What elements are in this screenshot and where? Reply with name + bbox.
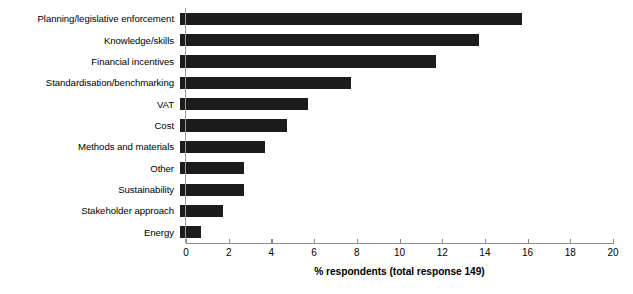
x-axis-title: % respondents (total response 149) [186,266,613,277]
bar-track [180,93,633,114]
bar-track [180,179,633,200]
bar [180,98,308,110]
bar-row: Planning/legislative enforcement [0,8,633,29]
bar-track [180,29,633,50]
y-axis-line [185,8,186,243]
x-axis-tick-mark [528,239,529,244]
bar-category-label: Other [0,163,180,174]
bar-row: Knowledge/skills [0,29,633,50]
x-axis-tick-label: 2 [226,247,232,259]
bar-track [180,51,633,72]
bar-category-label: Financial incentives [0,56,180,67]
bar-row: Financial incentives [0,51,633,72]
bar-row: Energy [0,222,633,243]
x-axis-tick-mark [271,239,272,244]
bar-category-label: VAT [0,99,180,110]
x-axis-tick-label: 14 [479,247,490,259]
bar-category-label: Methods and materials [0,141,180,152]
x-axis-tick-label: 18 [565,247,576,259]
bar-category-label: Sustainability [0,184,180,195]
x-axis-tick-label: 16 [522,247,533,259]
bar-track [180,115,633,136]
bar [180,184,244,196]
x-axis-tick-mark [357,239,358,244]
x-axis-tick-label: 6 [311,247,317,259]
x-axis-tick-mark [314,239,315,244]
bar [180,119,287,131]
bar-row: Stakeholder approach [0,200,633,221]
bar [180,226,201,238]
bar-track [180,8,633,29]
x-axis-tick-mark [570,239,571,244]
bar [180,205,223,217]
bar-track [180,72,633,93]
bar-rows: Planning/legislative enforcementKnowledg… [0,0,633,235]
bar-category-label: Energy [0,227,180,238]
bar-track [180,200,633,221]
bar-track [180,222,633,243]
bar-category-label: Cost [0,120,180,131]
bar [180,77,351,89]
x-axis-tick-label: 0 [183,247,189,259]
bar [180,141,265,153]
bar [180,162,244,174]
bar-category-label: Stakeholder approach [0,205,180,216]
bar-chart: Planning/legislative enforcementKnowledg… [0,0,633,294]
x-axis-tick-label: 12 [437,247,448,259]
bar-category-label: Knowledge/skills [0,35,180,46]
bar-category-label: Planning/legislative enforcement [0,13,180,24]
bar [180,13,522,25]
bar-track [180,136,633,157]
bar-row: VAT [0,93,633,114]
bar-row: Cost [0,115,633,136]
x-axis-tick-label: 10 [394,247,405,259]
bar-row: Other [0,158,633,179]
bar-row: Standardisation/benchmarking [0,72,633,93]
x-axis-tick-mark [442,239,443,244]
bar-row: Methods and materials [0,136,633,157]
x-axis-tick-label: 8 [354,247,360,259]
bar-category-label: Standardisation/benchmarking [0,77,180,88]
x-axis-tick-mark [485,239,486,244]
bar [180,55,436,67]
x-axis-tick-mark [186,239,187,244]
bar-row: Sustainability [0,179,633,200]
x-axis-tick-label: 4 [269,247,275,259]
bar-track [180,158,633,179]
x-axis-tick-label: 20 [607,247,618,259]
x-axis-tick-mark [613,239,614,244]
x-axis-tick-mark [229,239,230,244]
x-axis-tick-mark [400,239,401,244]
bar [180,34,479,46]
